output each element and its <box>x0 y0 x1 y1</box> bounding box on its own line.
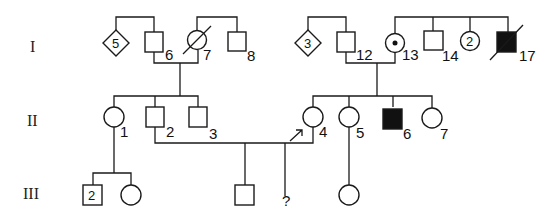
generation-label-i: I <box>30 38 35 55</box>
individual-ii5[interactable]: 5 <box>339 107 364 141</box>
circle-symbol <box>422 108 442 128</box>
id-label: 5 <box>356 124 364 141</box>
individual-ii3[interactable]: 3 <box>189 107 217 142</box>
marriage-line-ii2-ii4 <box>155 127 313 143</box>
id-label: 6 <box>165 46 173 63</box>
individual-i13[interactable]: 13 <box>386 34 419 64</box>
individual-ii2[interactable]: 2 <box>146 107 174 140</box>
id-label: 7 <box>203 46 211 63</box>
individual-i12[interactable]: 12 <box>337 32 373 63</box>
individual-iii-unknown[interactable]: ? <box>282 192 290 209</box>
id-label: 14 <box>442 47 459 64</box>
individual-iii-female-1[interactable] <box>121 185 141 205</box>
individual-ii4[interactable]: 4 <box>290 107 327 141</box>
sibship-line-i13-i17 <box>395 17 508 33</box>
individual-ii1[interactable]: 1 <box>104 107 128 140</box>
square-symbol <box>189 107 207 127</box>
individual-iii-female-2[interactable] <box>339 185 359 205</box>
id-label: 6 <box>403 125 411 142</box>
individual-i3[interactable]: 3 <box>295 30 321 56</box>
id-label: 7 <box>440 125 448 142</box>
id-label: 1 <box>120 123 128 140</box>
square-symbol <box>424 31 443 50</box>
individual-i7[interactable]: 7 <box>183 26 211 63</box>
individual-i5[interactable]: 5 <box>103 30 129 56</box>
sibship-line-ii-right <box>313 96 432 108</box>
circle-symbol <box>121 185 141 205</box>
sibship-line-i5-i6 <box>116 17 154 32</box>
square-symbol <box>337 32 355 52</box>
sibship-line-i7-i8 <box>197 17 237 32</box>
individual-i6[interactable]: 6 <box>145 32 173 63</box>
square-symbol-affected <box>383 109 402 129</box>
individual-ii6[interactable]: 6 <box>383 109 411 142</box>
unknown-marker: ? <box>282 192 290 209</box>
square-symbol <box>235 185 254 205</box>
square-symbol <box>146 107 164 127</box>
circle-symbol <box>339 185 359 205</box>
individual-i8[interactable]: 8 <box>228 32 255 64</box>
individual-i17[interactable]: 17 <box>490 25 536 64</box>
sibship-line-i3-i12 <box>308 17 346 32</box>
square-symbol <box>228 32 246 51</box>
id-label: 13 <box>402 46 419 63</box>
id-label: 12 <box>356 46 373 63</box>
id-label: 2 <box>166 123 174 140</box>
generation-label-ii: II <box>27 112 38 129</box>
individual-i14[interactable]: 14 <box>424 31 459 64</box>
inner-count: 2 <box>88 188 95 203</box>
individual-iii-male[interactable] <box>235 185 254 205</box>
id-label: 4 <box>319 123 327 140</box>
proband-arrow-icon <box>290 130 302 141</box>
sibship-line-iii-left <box>93 173 131 185</box>
inner-count: 3 <box>304 36 311 51</box>
id-label: 3 <box>209 125 217 142</box>
carrier-dot <box>393 41 398 46</box>
inner-count: 2 <box>466 34 473 49</box>
sibship-line-ii-left <box>114 96 198 107</box>
id-label: 17 <box>519 47 536 64</box>
pedigree-chart: I II III 5 6 7 8 3 12 13 <box>0 0 551 222</box>
individual-i2c[interactable]: 2 <box>461 32 480 51</box>
square-symbol <box>145 32 163 52</box>
inner-count: 5 <box>112 36 119 51</box>
individual-ii7[interactable]: 7 <box>422 108 448 142</box>
generation-label-iii: III <box>23 185 39 202</box>
id-label: 8 <box>247 47 255 64</box>
individual-iii-2-males[interactable]: 2 <box>83 185 102 205</box>
